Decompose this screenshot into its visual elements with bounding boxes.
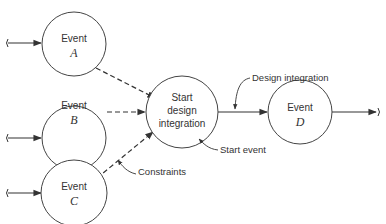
- annotation-start-event: Start event: [199, 139, 266, 155]
- node-d-label: Event: [287, 102, 313, 113]
- svg-text:Design integration: Design integration: [252, 72, 329, 83]
- dashed-edge-a-start: [96, 68, 155, 98]
- annotation-constraints: Constraints: [118, 160, 186, 177]
- node-start-design-integration: Start design integration: [146, 76, 218, 148]
- node-a-id: A: [69, 46, 78, 60]
- node-start-line1: Start: [171, 92, 192, 103]
- node-c-label: Event: [61, 181, 87, 192]
- node-start-line3: integration: [159, 118, 206, 129]
- node-d-id: D: [295, 115, 305, 129]
- outgoing-edge-d: [332, 108, 380, 116]
- svg-text:Start event: Start event: [220, 144, 266, 155]
- node-b-id: B: [70, 113, 78, 127]
- svg-text:Constraints: Constraints: [138, 166, 186, 177]
- node-event-d: Event D: [268, 80, 332, 144]
- incoming-edge-b: [7, 134, 42, 142]
- node-event-c: Event C: [41, 160, 107, 224]
- node-a-label: Event: [61, 33, 87, 44]
- node-event-a: Event A: [42, 12, 106, 76]
- node-c-id: C: [70, 194, 79, 208]
- node-start-line2: design: [167, 105, 196, 116]
- incoming-edge-a: [7, 39, 42, 47]
- event-network-diagram: Event A Event B Event C Start design int…: [0, 0, 386, 224]
- incoming-edge-c: [7, 189, 42, 197]
- node-b-label: Event: [61, 100, 87, 111]
